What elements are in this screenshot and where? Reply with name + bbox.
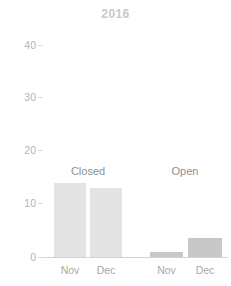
x-axis-label-open-dec: Dec xyxy=(188,264,222,276)
plot-area: 40 30 20 10 0 Closed Open Nov Dec Nov De… xyxy=(0,0,231,286)
bar-chart: 2016 40 30 20 10 0 Closed Open Nov Dec N… xyxy=(0,0,231,286)
x-axis-label-closed-dec: Dec xyxy=(90,264,122,276)
y-axis-tick-mark-20 xyxy=(38,150,43,151)
bar-closed-nov[interactable] xyxy=(54,183,86,257)
y-axis-tick-label-20: 20 xyxy=(0,145,36,155)
bar-open-nov[interactable] xyxy=(150,252,183,257)
group-label-closed: Closed xyxy=(53,165,123,177)
x-axis-label-closed-nov: Nov xyxy=(54,264,86,276)
y-axis-tick-mark-30 xyxy=(38,97,43,98)
y-axis-tick-label-30: 30 xyxy=(0,92,36,102)
group-label-open: Open xyxy=(150,165,220,177)
y-axis-tick-label-40: 40 xyxy=(0,40,36,50)
y-axis-tick-mark-40 xyxy=(38,45,43,46)
y-axis-tick-mark-10 xyxy=(38,203,43,204)
x-axis-label-open-nov: Nov xyxy=(150,264,183,276)
bar-open-dec[interactable] xyxy=(188,238,222,257)
y-axis-tick-label-0: 0 xyxy=(0,252,36,262)
x-axis-line xyxy=(43,257,228,258)
bar-closed-dec[interactable] xyxy=(90,188,122,257)
y-axis-tick-label-10: 10 xyxy=(0,198,36,208)
